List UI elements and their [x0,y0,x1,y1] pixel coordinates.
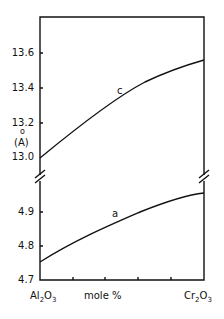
ytick-13.6: 13.6 [2,48,34,58]
x-axis-label: mole % [84,291,121,301]
y-unit-ring: o [20,128,25,136]
ytick-13.4: 13.4 [2,83,34,93]
curve-c-label: c [117,86,123,96]
y-unit-label: (A) [14,138,29,148]
ytick-13.2: 13.2 [2,118,34,128]
x-left-label: Al2O3 [30,291,56,304]
curve-a [40,193,204,262]
ytick-4.9: 4.9 [2,207,34,217]
curve-a-label: a [112,209,118,219]
ytick-4.7: 4.7 [2,275,34,285]
curve-c [40,60,204,158]
ytick-13.0: 13.0 [2,152,34,162]
x-right-label: Cr2O3 [184,291,212,304]
ytick-4.8: 4.8 [2,241,34,251]
plot-frame [40,17,204,280]
